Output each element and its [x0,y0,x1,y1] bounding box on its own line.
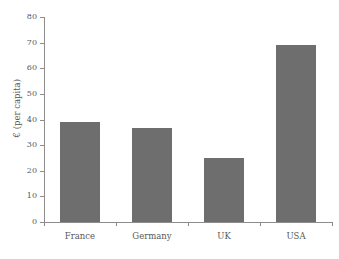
bar-uk [204,158,244,222]
y-tick-label: 70 [7,39,37,47]
y-tick-mark [40,171,44,172]
y-tick-mark [40,94,44,95]
x-tick-label-usa: USA [260,232,332,241]
x-tick-label-france: France [44,232,116,241]
y-tick-mark [40,145,44,146]
y-tick-mark [40,120,44,121]
y-tick-label: 60 [7,64,37,72]
y-tick-label: 0 [7,218,37,226]
y-tick-label: 10 [7,192,37,200]
x-tick-mark [116,222,117,226]
x-tick-label-uk: UK [188,232,260,241]
y-tick-label: 50 [7,90,37,98]
y-tick-label: 20 [7,167,37,175]
x-tick-mark [44,222,45,226]
y-tick-mark [40,17,44,18]
x-tick-mark [188,222,189,226]
chart-figure: € (per capita) 01020304050607080 FranceG… [0,0,339,259]
x-tick-mark [260,222,261,226]
y-tick-label: 30 [7,141,37,149]
bar-usa [276,45,316,222]
bar-france [60,122,100,222]
y-tick-label: 40 [7,116,37,124]
y-tick-mark [40,43,44,44]
y-axis-line [44,17,45,223]
y-tick-label: 80 [7,13,37,21]
x-tick-mark [332,222,333,226]
y-tick-mark [40,68,44,69]
x-tick-label-germany: Germany [116,232,188,241]
y-tick-mark [40,196,44,197]
bar-germany [132,128,172,222]
